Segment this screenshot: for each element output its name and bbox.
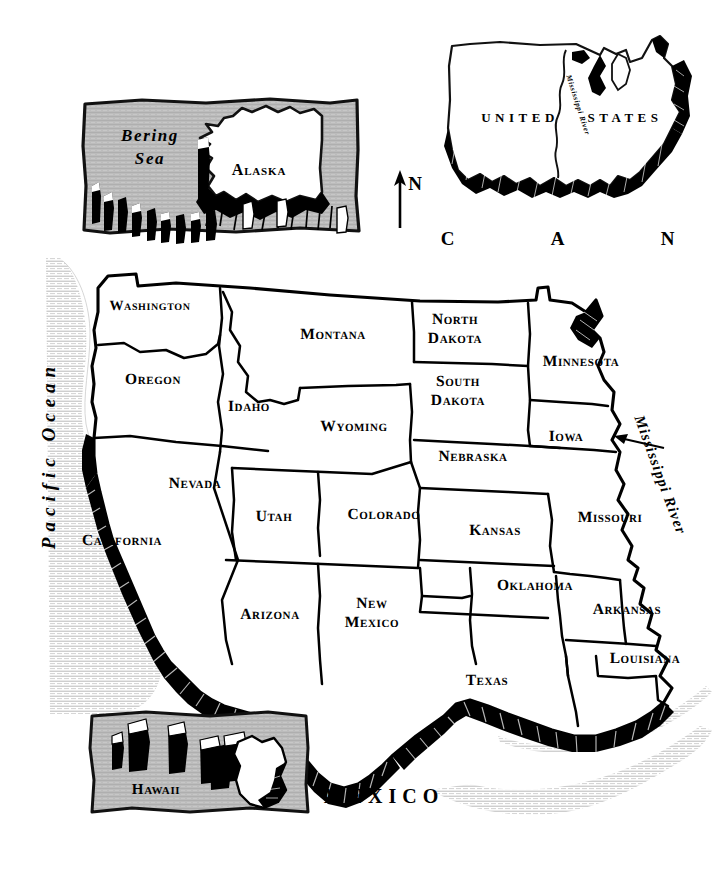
map-artwork [0,0,719,876]
mississippi-river-arrow-icon [614,434,664,448]
locator-inset [444,36,692,198]
hawaii-inset [90,712,308,812]
alaska-inset [83,99,359,244]
north-arrow-icon [394,170,406,228]
map-canvas: Pacific Ocean Bering Sea Alaska Hawaii N… [0,0,719,876]
